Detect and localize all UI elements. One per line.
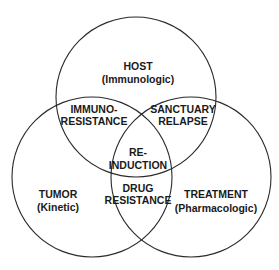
venn-diagram: HOST (Immunologic) TUMOR (Kinetic) TREAT…	[0, 0, 279, 270]
treatment-subtitle: (Pharmacologic)	[175, 202, 257, 214]
sanctuary-relapse-line2: RELAPSE	[158, 115, 208, 127]
host-subtitle: (Immunologic)	[102, 73, 174, 85]
reinduction-line2: INDUCTION	[109, 159, 167, 171]
host-title: HOST	[123, 60, 153, 72]
reinduction-line1: RE-	[129, 146, 148, 158]
immunoresistance-line1: IMMUNO-	[70, 103, 118, 115]
tumor-title: TUMOR	[39, 188, 78, 200]
drug-resistance-line2: RESISTANCE	[105, 194, 172, 206]
sanctuary-relapse-line1: SANCTUARY	[150, 103, 216, 115]
tumor-subtitle: (Kinetic)	[37, 201, 79, 213]
drug-resistance-line1: DRUG	[123, 182, 154, 194]
treatment-title: TREATMENT	[184, 188, 249, 200]
immunoresistance-line2: RESISTANCE	[61, 115, 128, 127]
